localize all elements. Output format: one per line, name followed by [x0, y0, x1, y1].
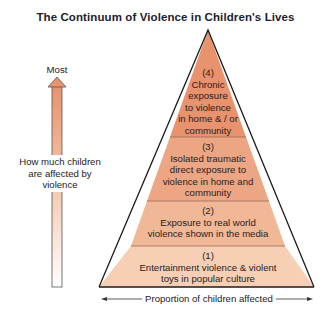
tier-1-label: (1) Entertainment violence & violent toy… [113, 250, 303, 285]
vertical-axis-label-line: violence [5, 179, 115, 191]
tier-level: (3) [148, 141, 268, 153]
tier-level: (1) [113, 250, 303, 262]
tier-line: Exposure to real world [133, 217, 283, 229]
tier-line: direct exposure to [148, 164, 268, 176]
tier-line: Isolated traumatic [148, 153, 268, 165]
tier-level: (2) [133, 205, 283, 217]
tier-line: community [148, 187, 268, 199]
most-label: Most [40, 64, 74, 75]
tier-level: (4) [168, 67, 248, 79]
tier-line: exposure [168, 90, 248, 102]
tier-line: violence shown in the media [133, 228, 283, 240]
vertical-axis-label-line: How much children [5, 156, 115, 168]
tier-line: violence in home and [148, 176, 268, 188]
vertical-axis-label-line: are affected by [5, 168, 115, 180]
tier-4-label: (4) Chronic exposure to violence in home… [168, 67, 248, 136]
vertical-axis-label: How much children are affected by violen… [5, 155, 115, 192]
tier-line: Entertainment violence & violent [113, 262, 303, 274]
tier-line: Chronic [168, 79, 248, 91]
tier-3-label: (3) Isolated traumatic direct exposure t… [148, 141, 268, 199]
tier-line: toys in popular culture [113, 273, 303, 285]
tier-line: in home & / or [168, 113, 248, 125]
tier-line: to violence [168, 102, 248, 114]
tier-2-label: (2) Exposure to real world violence show… [133, 205, 283, 240]
horizontal-axis-label: Proportion of children affected [142, 293, 276, 304]
tier-line: community [168, 125, 248, 137]
